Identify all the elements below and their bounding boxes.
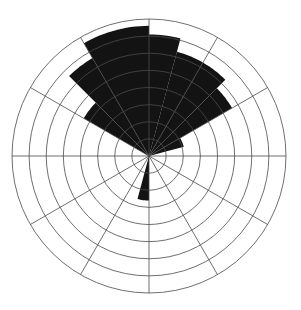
polar-chart-canvas: [0, 0, 301, 310]
polar-rose-chart: [0, 0, 301, 310]
